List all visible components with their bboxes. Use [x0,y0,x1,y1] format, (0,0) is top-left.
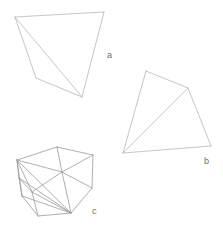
figure-background [0,0,223,239]
shape-label-c: c [92,207,97,216]
shape-label-b: b [204,157,209,166]
polygon-figure-canvas [0,0,223,239]
shape-label-a: a [107,51,112,60]
